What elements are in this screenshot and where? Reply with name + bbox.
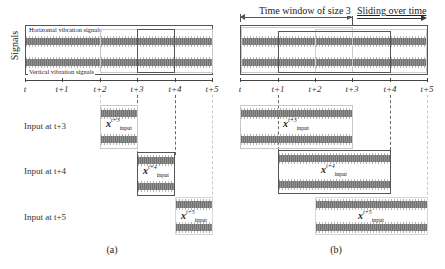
tick [212,78,213,82]
y-axis-label: Signals [9,26,20,66]
tick-label: t+4 [168,84,181,94]
tick [240,78,241,82]
tick-label: t+4 [383,84,396,94]
caption-b: (b) [330,244,342,255]
tick [137,78,138,82]
tick-label: t+2 [93,84,106,94]
tick [315,78,316,82]
signal-trace [138,183,174,190]
signal-trace [279,181,390,188]
sliding-arrow [357,18,422,19]
tick [427,78,428,82]
input-symbol-t5: xt+5input [181,210,207,223]
tick-label: t+5 [420,84,433,94]
input-symbol-t4: xt+4input [143,165,169,178]
row-label-t5: Input at t+5 [24,212,66,222]
tick [100,78,101,82]
input-symbol-t5: xt+5input [358,210,384,223]
tick-label: t+5 [205,84,218,94]
signal-trace [176,224,212,231]
signal-trace [101,136,137,143]
guide-line [175,95,176,155]
guide-line [390,95,391,150]
input-symbol-t3: xt+3input [106,118,132,131]
signal-trace [316,201,427,208]
tick [25,78,26,82]
caption-a: (a) [106,244,117,255]
tick [62,78,63,82]
input-symbol-t4: xt+4input [321,164,347,177]
window-size-arrow [240,17,352,18]
sliding-arrow-head-icon [421,15,427,21]
window-t1-t4 [278,31,391,73]
signal-trace [316,224,427,231]
time-axis [240,80,428,81]
arrow-end-bar [240,14,241,22]
window-t3-t4 [137,29,175,73]
tick-label: t [239,84,242,94]
vertical-signal-label: Vertical vibration signals [28,68,95,75]
tick-label: t+3 [345,84,358,94]
tick-label: t+2 [308,84,321,94]
tick-label: t+1 [271,84,284,94]
row-label-t3: Input at t+3 [24,121,66,131]
time-axis [25,80,213,81]
tick [390,78,391,82]
signal-trace [176,201,212,208]
signal-trace [101,110,137,117]
signal-trace [241,110,352,117]
row-label-t4: Input at t+4 [24,166,66,176]
tick [278,78,279,82]
tick-label: t [24,84,27,94]
guide-line [427,95,428,195]
signal-trace [241,136,352,143]
tick-label: t+1 [55,84,68,94]
signal-trace [138,157,174,164]
tick [175,78,176,82]
input-symbol-t3: xt+3input [283,118,309,131]
horizontal-signal-label: Horizontal vibration signals [28,26,103,33]
sliding-label: Sliding over time [357,5,426,16]
window-label: Time window of size 3 [257,5,353,16]
tick [352,78,353,82]
signal-trace [279,155,390,162]
tick-label: t+3 [130,84,143,94]
